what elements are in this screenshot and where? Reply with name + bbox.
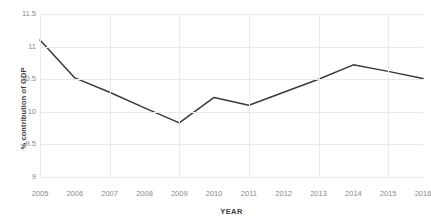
gridline-horizontal — [40, 144, 423, 145]
gridline-horizontal — [40, 14, 423, 15]
x-tick-label: 2006 — [66, 190, 83, 198]
gridline-horizontal — [40, 112, 423, 113]
gridline-horizontal — [40, 79, 423, 80]
y-tick-label: 10.5 — [10, 75, 36, 83]
x-tick-label: 2011 — [241, 190, 257, 198]
x-tick-label: 2010 — [206, 190, 223, 198]
y-tick-label: 11 — [10, 43, 36, 51]
x-axis-tick-labels: 2005200620072008200920102011201220132014… — [40, 190, 423, 202]
x-tick-label: 2009 — [171, 190, 188, 198]
gridline-vertical — [179, 14, 180, 177]
x-tick-label: 2015 — [380, 190, 397, 198]
gridline-vertical — [249, 14, 250, 177]
x-tick-label: 2005 — [32, 190, 49, 198]
gridline-vertical — [110, 14, 111, 177]
x-tick-label: 2008 — [136, 190, 153, 198]
y-axis-tick-labels: 11.51110.5109.59 — [8, 0, 36, 221]
gridline-vertical — [40, 14, 41, 177]
series-line — [40, 14, 423, 177]
x-tick-label: 2012 — [275, 190, 292, 198]
gridline-horizontal — [40, 177, 423, 178]
y-tick-label: 9 — [10, 173, 36, 181]
x-tick-label: 2016 — [415, 190, 431, 198]
y-tick-label: 9.5 — [10, 140, 36, 148]
y-tick-label: 10 — [10, 108, 36, 116]
x-tick-label: 2013 — [310, 190, 327, 198]
x-tick-label: 2014 — [345, 190, 362, 198]
gridline-vertical — [388, 14, 389, 177]
y-tick-label: 11.5 — [10, 10, 36, 18]
x-tick-label: 2007 — [101, 190, 118, 198]
line-chart: % contribution of GDP 11.51110.5109.59 2… — [0, 0, 431, 221]
x-axis-title: YEAR — [40, 207, 423, 216]
gridline-vertical — [319, 14, 320, 177]
gridline-horizontal — [40, 47, 423, 48]
plot-area — [40, 14, 423, 177]
